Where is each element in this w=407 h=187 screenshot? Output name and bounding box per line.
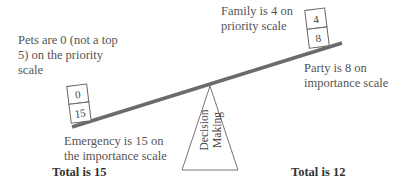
- fulcrum-triangle: [182, 86, 238, 170]
- left-total: Total is 15: [52, 165, 106, 180]
- right-total: Total is 12: [291, 165, 345, 180]
- right-bottom-annotation: Party is 8 on importance scale: [304, 61, 399, 91]
- left-bottom-annotation: Emergency is 15 on the importance scale: [64, 134, 176, 164]
- left-box-stack: 0 15: [67, 84, 91, 123]
- left-box-bottom-value: 15: [74, 106, 87, 119]
- left-top-annotation: Pets are 0 (not a top 5) on the priority…: [18, 33, 128, 78]
- fulcrum-label-line1: Decision: [198, 109, 210, 150]
- fulcrum-label-line2: Making: [211, 112, 224, 148]
- seesaw-diagram: 0 15 4 8 Decision Making: [0, 0, 407, 187]
- right-box-stack: 4 8: [305, 8, 329, 48]
- right-top-annotation: Family is 4 on priority scale: [221, 4, 301, 34]
